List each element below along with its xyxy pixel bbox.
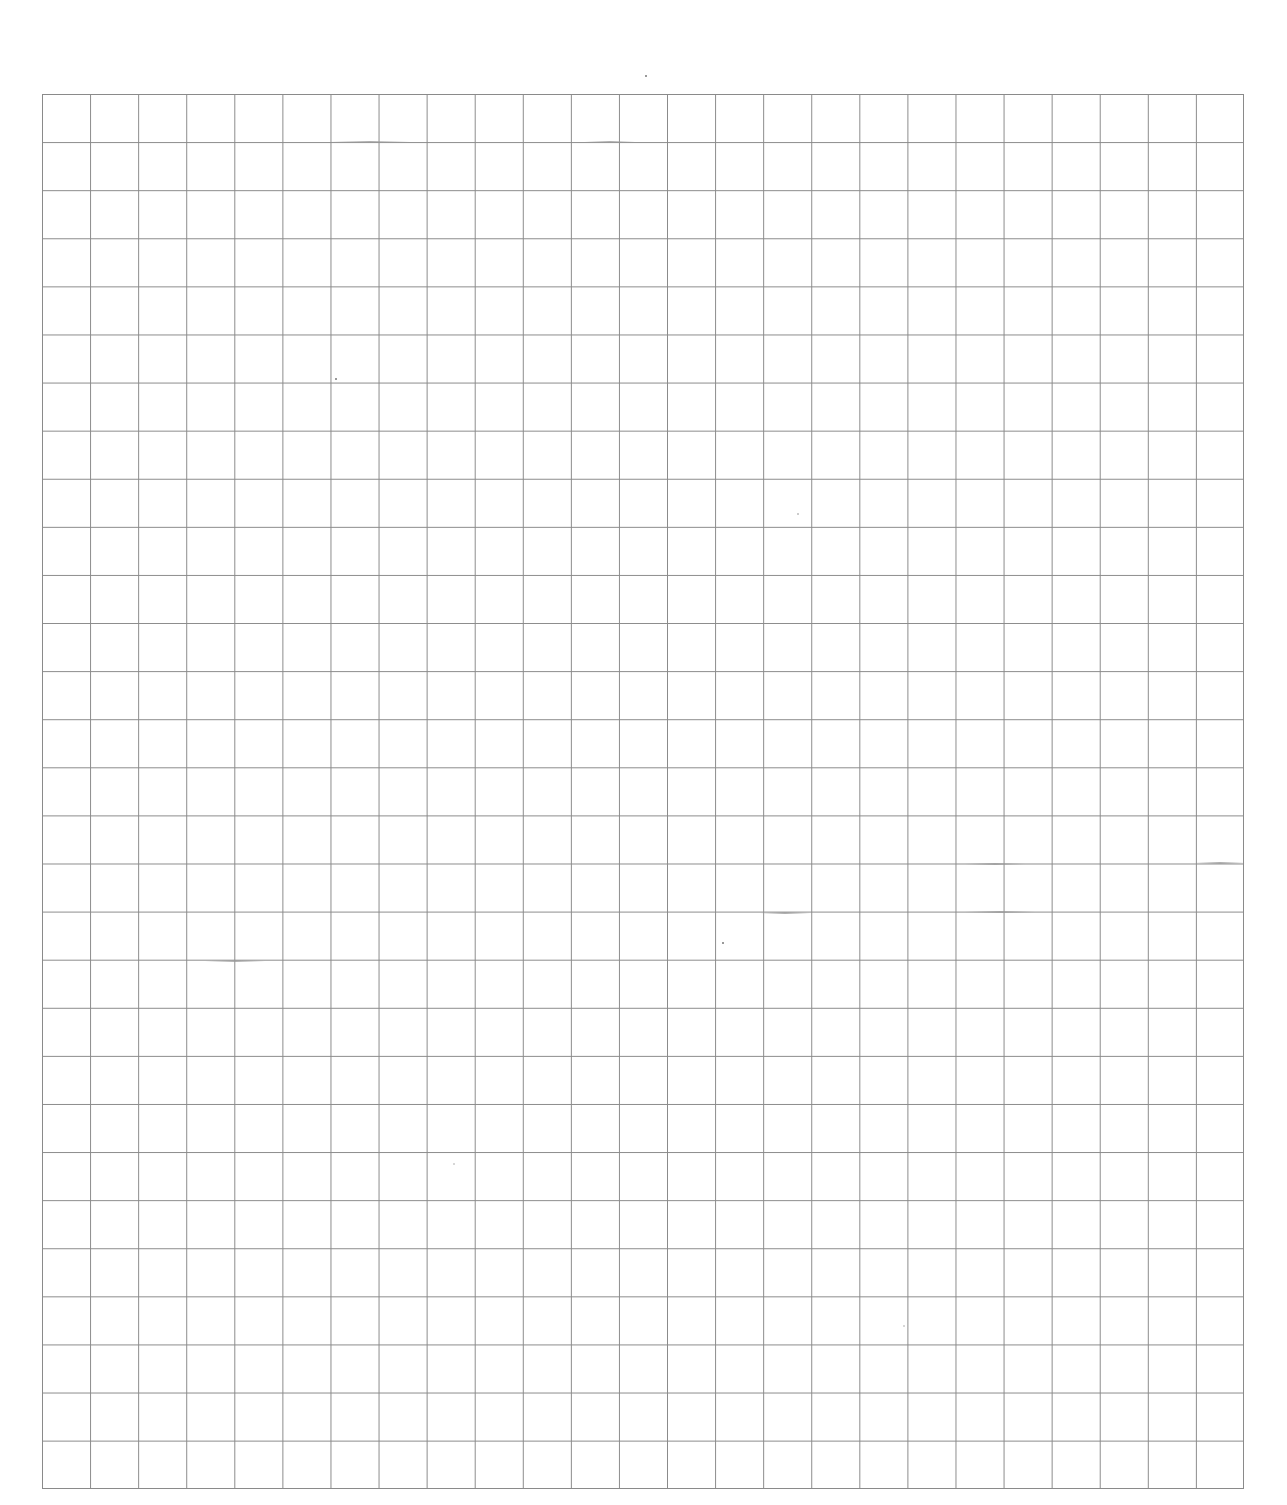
scan-speck [453,1163,455,1165]
scan-artifact [965,911,1035,913]
scan-speck [335,378,337,380]
scan-artifact [965,863,1025,865]
scan-artifact [760,912,810,914]
scan-speck [722,942,724,944]
scan-speck [903,1325,905,1327]
scan-artifact [205,960,265,962]
scan-artifact [1195,862,1245,864]
scan-artifact [330,141,410,143]
scan-artifact [585,141,635,143]
scan-speck [797,513,799,515]
square-grid [42,94,1244,1489]
grid-paper-page [0,0,1287,1505]
scan-speck [645,75,647,77]
